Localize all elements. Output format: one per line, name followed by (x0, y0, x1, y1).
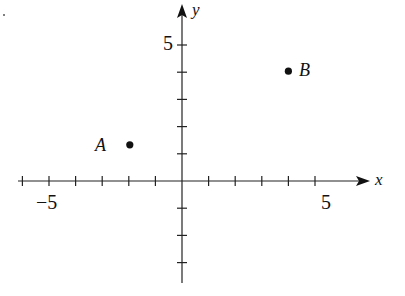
point-a (126, 141, 133, 148)
point-label-a: A (95, 136, 106, 154)
point-label-b: B (299, 61, 310, 79)
tick-marks (22, 45, 315, 263)
y-axis-label: y (192, 1, 200, 18)
x-tick-label-5: 5 (321, 192, 331, 212)
point-b (285, 68, 292, 75)
points (126, 68, 292, 149)
x-tick-label-neg5: −5 (36, 192, 57, 212)
axis-arrows (177, 4, 370, 186)
x-axis-label: x (375, 171, 383, 188)
axes (18, 12, 362, 283)
coordinate-plane (0, 0, 405, 296)
stray-dot (3, 14, 5, 16)
y-tick-label-5: 5 (163, 33, 173, 53)
